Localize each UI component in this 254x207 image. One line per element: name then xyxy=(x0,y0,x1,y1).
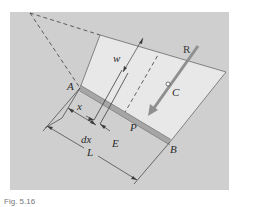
label-x: x xyxy=(76,100,82,112)
label-dx: dx xyxy=(81,133,92,145)
hydrostatic-gate-diagram: A w x dx E P C R B L xyxy=(0,0,254,207)
label-P: P xyxy=(129,121,137,133)
label-R: R xyxy=(183,43,191,55)
label-w: w xyxy=(113,52,121,64)
label-L: L xyxy=(86,146,93,158)
label-C: C xyxy=(172,86,180,98)
figure-caption: Fig. 5.16 xyxy=(4,197,35,206)
label-E: E xyxy=(111,137,119,149)
label-A: A xyxy=(66,80,74,92)
centroid-point xyxy=(166,82,170,86)
label-B: B xyxy=(170,143,177,155)
